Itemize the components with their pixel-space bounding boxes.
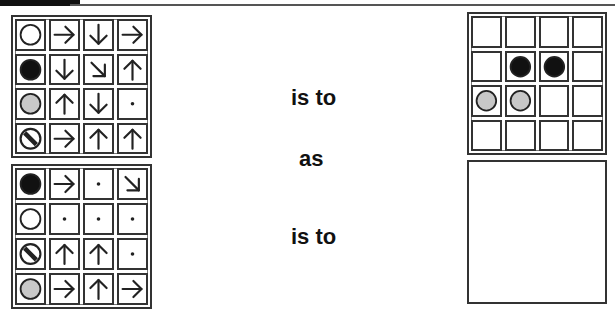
grid-cell bbox=[505, 85, 536, 117]
grid-cell bbox=[49, 123, 80, 155]
dot-icon bbox=[119, 205, 146, 233]
circle-striped-icon bbox=[17, 125, 44, 153]
grid-cell bbox=[49, 88, 80, 120]
is-to-label-2: is to bbox=[291, 224, 336, 250]
grid-cell bbox=[539, 120, 570, 152]
grid-cell bbox=[471, 16, 502, 48]
grid-cell bbox=[539, 16, 570, 48]
grid-cell bbox=[539, 85, 570, 117]
grid-cell bbox=[83, 19, 114, 51]
grid-cell bbox=[15, 54, 46, 86]
grid-bottom-left bbox=[11, 164, 152, 309]
grid-cell bbox=[505, 51, 536, 83]
arrow-up-icon bbox=[51, 90, 78, 118]
arrow-up-icon bbox=[85, 125, 112, 153]
grid-cell bbox=[117, 168, 148, 200]
arrow-down-icon bbox=[51, 56, 78, 84]
arrow-up-icon bbox=[119, 56, 146, 84]
circle-grey-icon bbox=[507, 87, 534, 115]
arrow-up-icon bbox=[51, 240, 78, 268]
grid-cell bbox=[49, 273, 80, 305]
grid-cell bbox=[83, 168, 114, 200]
arrow-right-icon bbox=[51, 275, 78, 303]
grid-cell bbox=[15, 238, 46, 270]
grid-cell bbox=[15, 123, 46, 155]
circle-black-icon bbox=[507, 53, 534, 81]
grid-cell bbox=[471, 120, 502, 152]
circle-white-icon bbox=[17, 205, 44, 233]
circle-grey-icon bbox=[17, 275, 44, 303]
arrow-down-right-icon bbox=[119, 170, 146, 198]
dot-icon bbox=[85, 205, 112, 233]
grid-cell bbox=[117, 19, 148, 51]
arrow-up-icon bbox=[119, 125, 146, 153]
circle-grey-icon bbox=[473, 87, 500, 115]
dot-icon bbox=[119, 90, 146, 118]
arrow-down-right-icon bbox=[85, 56, 112, 84]
circle-black-icon bbox=[541, 53, 568, 81]
dot-icon bbox=[85, 170, 112, 198]
grid-top-left bbox=[11, 15, 152, 158]
grid-cell bbox=[572, 85, 603, 117]
grid-cell bbox=[83, 273, 114, 305]
grid-cell bbox=[83, 88, 114, 120]
grid-cell bbox=[83, 54, 114, 86]
dot-icon bbox=[51, 205, 78, 233]
grid-cell bbox=[572, 16, 603, 48]
grid-cell bbox=[15, 19, 46, 51]
arrow-down-icon bbox=[85, 90, 112, 118]
grid-cell bbox=[471, 85, 502, 117]
grid-cell bbox=[117, 88, 148, 120]
grid-cell bbox=[15, 203, 46, 235]
arrow-right-icon bbox=[51, 21, 78, 49]
grid-cell bbox=[15, 168, 46, 200]
circle-grey-icon bbox=[17, 90, 44, 118]
grid-cell bbox=[49, 168, 80, 200]
grid-cell bbox=[572, 51, 603, 83]
is-to-label-1: is to bbox=[291, 85, 336, 111]
grid-cell bbox=[471, 51, 502, 83]
grid-cell bbox=[117, 123, 148, 155]
arrow-right-icon bbox=[51, 170, 78, 198]
grid-cell bbox=[83, 238, 114, 270]
grid-cell bbox=[49, 19, 80, 51]
circle-white-icon bbox=[17, 21, 44, 49]
grid-cell bbox=[117, 54, 148, 86]
grid-cell bbox=[83, 203, 114, 235]
answer-box[interactable] bbox=[467, 160, 607, 304]
grid-cell bbox=[15, 88, 46, 120]
header-rule bbox=[70, 4, 615, 6]
arrow-up-icon bbox=[85, 275, 112, 303]
grid-top-right bbox=[467, 12, 607, 155]
grid-cell bbox=[505, 16, 536, 48]
circle-striped-icon bbox=[17, 240, 44, 268]
arrow-down-icon bbox=[85, 21, 112, 49]
arrow-right-icon bbox=[51, 125, 78, 153]
grid-cell bbox=[117, 238, 148, 270]
arrow-right-icon bbox=[119, 275, 146, 303]
grid-cell bbox=[49, 203, 80, 235]
dot-icon bbox=[119, 240, 146, 268]
grid-cell bbox=[49, 54, 80, 86]
circle-black-icon bbox=[17, 170, 44, 198]
grid-cell bbox=[117, 203, 148, 235]
circle-black-icon bbox=[17, 56, 44, 84]
grid-cell bbox=[15, 273, 46, 305]
arrow-up-icon bbox=[85, 240, 112, 268]
header-bar bbox=[0, 0, 80, 6]
grid-cell bbox=[83, 123, 114, 155]
grid-cell bbox=[539, 51, 570, 83]
as-label: as bbox=[299, 146, 323, 172]
grid-cell bbox=[117, 273, 148, 305]
grid-cell bbox=[505, 120, 536, 152]
arrow-right-icon bbox=[119, 21, 146, 49]
grid-cell bbox=[49, 238, 80, 270]
grid-cell bbox=[572, 120, 603, 152]
